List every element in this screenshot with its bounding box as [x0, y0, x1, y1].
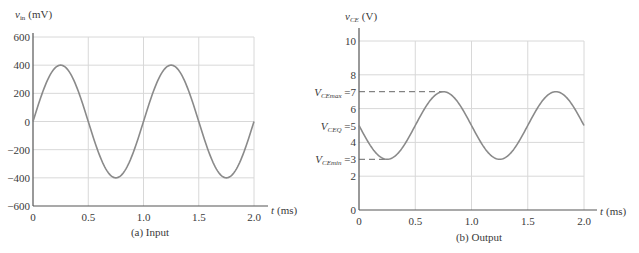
output-xlabel-var: t [600, 205, 604, 217]
x-tick-label: 1.0 [465, 215, 479, 227]
output-xlabel-unit: (ms) [606, 205, 627, 218]
panel-output: 1086420 00.51.01.52.0 VCEmax =7VCEQ =5VC… [314, 10, 626, 244]
x-tick-label: 1.5 [192, 211, 206, 223]
output-x-tick-labels: 00.51.01.52.0 [356, 215, 591, 227]
y-tick-label: 200 [14, 87, 31, 99]
y-tick-label: −600 [7, 200, 30, 212]
y-tick-label: 4 [351, 136, 357, 148]
y-tick-label: −400 [7, 172, 30, 184]
input-x-tick-labels: 00.51.01.52.0 [30, 211, 261, 223]
input-x-axis-label: t(ms) [271, 204, 298, 217]
output-annotations: VCEmax =7VCEQ =5VCEmin =3 [314, 86, 356, 168]
y-tick-label: 400 [14, 59, 31, 71]
chart-figure: 6004002000−200−400−600 00.51.01.52.0 vin… [0, 0, 639, 253]
input-caption: (a) Input [131, 226, 169, 239]
input-y-tick-labels: 6004002000−200−400−600 [7, 31, 30, 212]
x-tick-label: 1.5 [521, 215, 535, 227]
output-ylabel-sub: CE [350, 16, 360, 24]
output-x-axis-label: t(ms) [600, 205, 627, 218]
input-y-axis-label: vin(mV) [15, 8, 53, 22]
y-tick-label: 6 [351, 103, 357, 115]
annotation-label: VCEmax =7 [314, 86, 356, 100]
y-tick-label: 10 [345, 35, 357, 47]
input-ylabel-sub: in [20, 14, 26, 22]
input-xlabel-var: t [271, 204, 275, 216]
x-tick-label: 0.5 [81, 211, 95, 223]
x-tick-label: 2.0 [577, 215, 591, 227]
input-xlabel-unit: (ms) [277, 204, 298, 217]
output-ylabel-unit: (V) [362, 10, 378, 23]
y-tick-label: −200 [7, 144, 30, 156]
panel-input: 6004002000−200−400−600 00.51.01.52.0 vin… [7, 8, 297, 239]
y-tick-label: 2 [351, 170, 357, 182]
input-ylabel-unit: (mV) [28, 8, 52, 21]
y-tick-label: 8 [351, 69, 357, 81]
output-caption: (b) Output [456, 231, 502, 244]
annotation-label: VCEQ =5 [321, 120, 357, 134]
annotation-label: VCEmin =3 [315, 153, 356, 167]
x-tick-label: 0 [30, 211, 36, 223]
output-y-axis-label: vCE(V) [345, 10, 377, 24]
x-tick-label: 0.5 [408, 215, 422, 227]
x-tick-label: 2.0 [247, 211, 261, 223]
x-tick-label: 1.0 [137, 211, 151, 223]
x-tick-label: 0 [356, 215, 362, 227]
y-tick-label: 600 [14, 31, 31, 43]
y-tick-label: 0 [25, 116, 31, 128]
